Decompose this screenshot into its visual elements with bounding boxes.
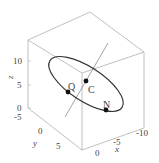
y-tick-5: 5 xyxy=(56,141,61,151)
z-tick-10: 10 xyxy=(13,56,23,66)
z-tick-5: 5 xyxy=(17,80,22,90)
label-q: Q xyxy=(68,81,76,92)
3d-plot: C Q N 10 5 0 z -5 0 5 y 0 -5 -10 x xyxy=(0,0,159,163)
y-tick-0: 0 xyxy=(38,126,43,136)
label-c: C xyxy=(88,84,95,95)
x-axis-label: x xyxy=(114,144,119,154)
y-tick-minus5: -5 xyxy=(14,112,22,122)
z-axis-ticks xyxy=(28,61,31,108)
point-c xyxy=(84,79,89,84)
x-tick-minus10: -10 xyxy=(136,128,148,138)
circle-curve xyxy=(41,46,132,121)
label-n: N xyxy=(103,99,110,110)
y-axis-label: y xyxy=(32,138,37,148)
z-axis-label: z xyxy=(5,75,15,80)
x-tick-0: 0 xyxy=(95,148,100,158)
